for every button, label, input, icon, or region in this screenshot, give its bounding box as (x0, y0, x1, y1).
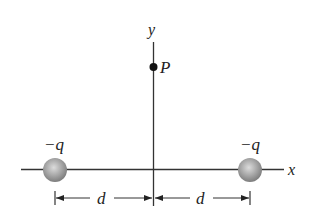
y-axis-label: y (146, 21, 156, 39)
left-charge-label: −q (44, 135, 64, 154)
point-p-dot (150, 63, 158, 71)
dimension-label-right: d (196, 189, 205, 208)
right-charge-sphere (238, 158, 262, 182)
x-axis-label: x (287, 161, 295, 178)
right-charge-label: −q (240, 135, 260, 154)
left-charge-sphere (43, 158, 67, 182)
charge-diagram: y x P −q −q d d (0, 0, 312, 220)
point-p-label: P (159, 58, 170, 77)
dimension-label-left: d (97, 189, 106, 208)
